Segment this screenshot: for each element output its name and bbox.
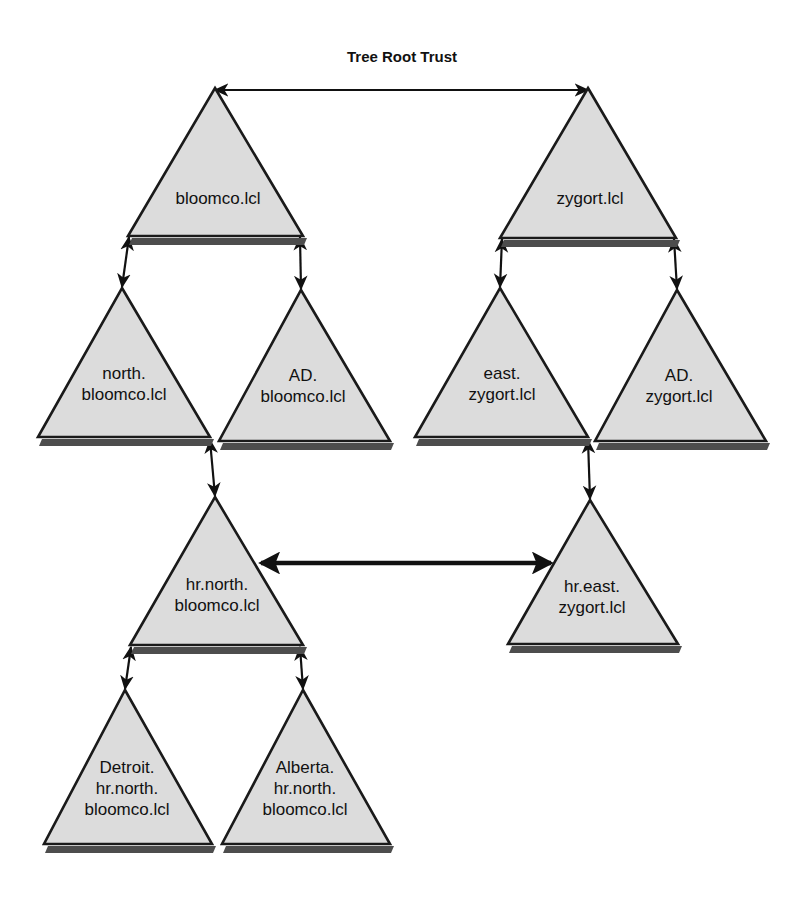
domain-triangle-hr-north-bloomco[interactable]: hr.north.bloomco.lcl: [130, 497, 307, 654]
domain-label-line: bloomco.lcl: [174, 596, 259, 615]
double-arrow-icon: [122, 237, 129, 287]
forest-trust-diagram: Tree Root Trust bloomco.lclzygort.lclnor…: [0, 0, 804, 900]
triangle-body: [500, 88, 676, 238]
domain-label-line: bloomco.lcl: [260, 387, 345, 406]
domain-label-line: bloomco.lcl: [81, 385, 166, 404]
domain-triangle-bloomco[interactable]: bloomco.lcl: [128, 88, 307, 245]
triangle-body: [128, 88, 303, 236]
triangle-shadow: [223, 846, 394, 853]
trust-link-bloomco-to-north[interactable]: [122, 237, 129, 287]
domain-triangle-ad-zygort[interactable]: AD.zygort.lcl: [595, 290, 770, 450]
triangle-shadow: [131, 647, 307, 654]
domain-triangle-hr-east-zygort[interactable]: hr.east.zygort.lcl: [508, 500, 682, 653]
domain-triangle-ad-bloomco[interactable]: AD.bloomco.lcl: [219, 290, 394, 450]
domain-triangle-detroit-hr-north-bloomco[interactable]: Detroit.hr.north.bloomco.lcl: [44, 690, 216, 853]
domain-label-line: hr.east.: [564, 577, 620, 596]
domain-label-line: hr.north.: [186, 575, 248, 594]
triangle-shadow: [501, 240, 680, 247]
triangle-shadow: [220, 443, 394, 450]
triangle-shadow: [45, 846, 216, 853]
domain-triangles-layer: bloomco.lclzygort.lclnorth.bloomco.lclAD…: [38, 88, 770, 853]
triangle-body: [38, 288, 210, 437]
domain-label-line: east.: [484, 364, 521, 383]
page-title: Tree Root Trust: [347, 48, 457, 65]
domain-label-line: zygort.lcl: [468, 385, 535, 404]
domain-label-line: Detroit.: [100, 758, 155, 777]
domain-label-line: hr.north.: [274, 779, 336, 798]
domain-triangle-zygort[interactable]: zygort.lcl: [500, 88, 680, 247]
domain-label-line: bloomco.lcl: [84, 800, 169, 819]
diagram-title-group: Tree Root Trust: [347, 48, 457, 65]
triangle-body: [508, 500, 678, 644]
domain-triangle-east-zygort[interactable]: east.zygort.lcl: [415, 288, 592, 446]
double-arrow-icon: [588, 440, 590, 499]
trust-link-north-to-hr-north[interactable]: [210, 440, 215, 496]
domain-label-line: bloomco.lcl: [175, 189, 260, 208]
triangle-body: [415, 288, 588, 437]
trust-link-east-to-hr-east[interactable]: [588, 440, 590, 499]
domain-triangle-alberta-hr-north-bloomco[interactable]: Alberta.hr.north.bloomco.lcl: [222, 690, 394, 853]
triangle-body: [130, 497, 303, 645]
domain-label-line: zygort.lcl: [558, 598, 625, 617]
domain-triangle-north-bloomco[interactable]: north.bloomco.lcl: [38, 288, 214, 446]
triangle-shadow: [39, 439, 214, 446]
trust-diagram-canvas: Tree Root Trust bloomco.lclzygort.lclnor…: [0, 0, 804, 900]
triangle-shadow: [509, 646, 682, 653]
domain-label-line: zygort.lcl: [645, 387, 712, 406]
domain-label-line: hr.north.: [96, 779, 158, 798]
double-arrow-icon: [125, 647, 131, 689]
domain-label-line: zygort.lcl: [556, 189, 623, 208]
triangle-shadow: [416, 439, 592, 446]
trust-link-hr-north-to-detroit[interactable]: [125, 647, 131, 689]
domain-label-line: bloomco.lcl: [262, 800, 347, 819]
double-arrow-icon: [210, 440, 215, 496]
triangle-shadow: [596, 443, 770, 450]
domain-label-line: north.: [102, 364, 145, 383]
domain-label-line: AD.: [289, 366, 317, 385]
triangle-shadow: [129, 238, 307, 245]
domain-label-line: Alberta.: [276, 758, 335, 777]
domain-label-line: AD.: [665, 366, 693, 385]
